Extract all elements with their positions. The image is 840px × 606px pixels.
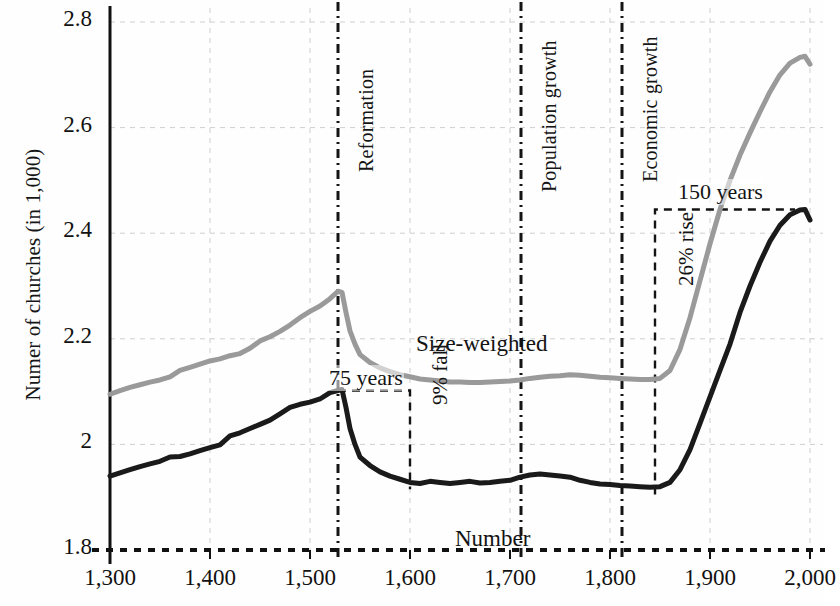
- x-tick-label: 1,900: [655, 566, 765, 589]
- vertical-event-markers: [338, 2, 622, 560]
- x-tick-label: 1,700: [455, 566, 565, 589]
- event-marker-label: Reformation: [355, 69, 378, 172]
- data-series: [110, 56, 810, 487]
- annotation-75-years: 75 years: [328, 365, 404, 391]
- x-tick-label: 1,300: [55, 566, 165, 589]
- x-tick-label: 1,500: [255, 566, 365, 589]
- x-tick-label: 1,400: [155, 566, 265, 589]
- x-tick-label: 2,000: [755, 566, 840, 589]
- y-tick-label: 2: [28, 429, 92, 452]
- y-tick-label: 2.8: [28, 7, 92, 30]
- x-tick-label: 1,600: [355, 566, 465, 589]
- series-label-size-weighted: Size-weighted: [416, 331, 548, 357]
- event-marker-label: Economic growth: [639, 36, 662, 182]
- y-tick-label: 2.4: [28, 218, 92, 241]
- y-axis-label: Numer of churches (in 1,000): [21, 110, 46, 440]
- y-tick-label: 2.2: [28, 324, 92, 347]
- y-tick-label: 2.6: [28, 113, 92, 136]
- y-tick-label: 1.8: [28, 535, 92, 558]
- grid-lines: [110, 8, 823, 550]
- annotation-150-years: 150 years: [677, 179, 764, 205]
- series-label-number: Number: [455, 526, 530, 552]
- event-marker-label: Population growth: [538, 40, 561, 192]
- x-tick-label: 1,800: [555, 566, 665, 589]
- annotation-26-percent-rise: 26% rise: [674, 212, 699, 286]
